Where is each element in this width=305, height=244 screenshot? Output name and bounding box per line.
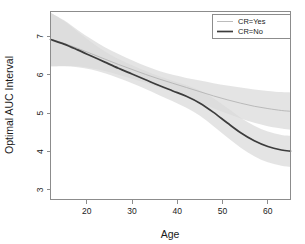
y-tick-label: 4 bbox=[35, 149, 45, 154]
chart-figure: 34567 2030405060 Age Optimal AUC Interva… bbox=[0, 0, 305, 244]
x-tick-label: 20 bbox=[82, 206, 92, 216]
y-tick-label: 6 bbox=[35, 72, 45, 77]
auc-age-line-chart: 34567 2030405060 Age Optimal AUC Interva… bbox=[0, 0, 305, 244]
x-tick-label: 50 bbox=[218, 206, 228, 216]
x-axis-title: Age bbox=[161, 228, 180, 240]
y-tick-label: 7 bbox=[35, 34, 45, 39]
legend: CR=Yes CR=No bbox=[212, 14, 290, 38]
x-tick-label: 30 bbox=[127, 206, 137, 216]
y-tick-label: 3 bbox=[35, 187, 45, 192]
legend-label-cr-yes: CR=Yes bbox=[238, 17, 266, 26]
legend-label-cr-no: CR=No bbox=[238, 27, 263, 36]
x-tick-label: 60 bbox=[263, 206, 273, 216]
y-axis-title: Optimal AUC Interval bbox=[3, 56, 15, 154]
x-tick-label: 40 bbox=[173, 206, 183, 216]
y-tick-label: 5 bbox=[35, 111, 45, 116]
